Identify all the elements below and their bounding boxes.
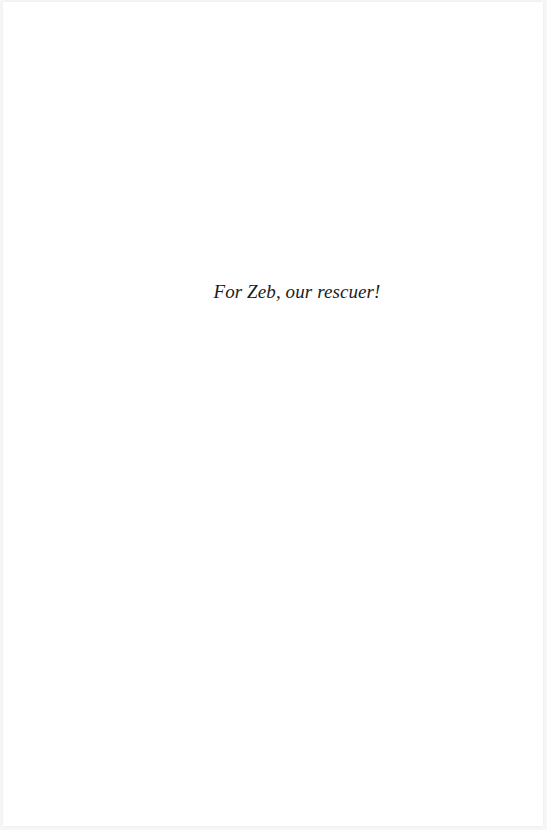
book-page: For Zeb, our rescuer! — [3, 2, 543, 826]
dedication-text: For Zeb, our rescuer! — [3, 281, 547, 303]
